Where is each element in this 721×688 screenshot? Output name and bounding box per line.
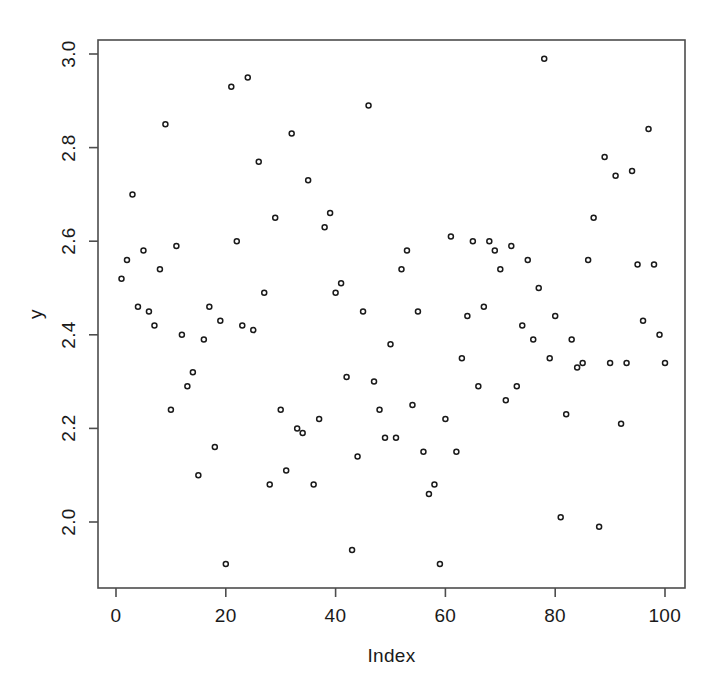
data-point (646, 126, 651, 131)
data-point (426, 491, 431, 496)
data-point (377, 407, 382, 412)
data-point (476, 384, 481, 389)
data-point (558, 515, 563, 520)
data-point (569, 337, 574, 342)
data-point (278, 407, 283, 412)
data-point (339, 281, 344, 286)
data-point (190, 370, 195, 375)
y-tick-label: 3.0 (57, 40, 79, 67)
data-point (218, 318, 223, 323)
data-point (333, 290, 338, 295)
data-point (185, 384, 190, 389)
data-point (300, 431, 305, 436)
data-point (652, 262, 657, 267)
data-point (608, 360, 613, 365)
data-point (361, 309, 366, 314)
y-tick-label: 2.2 (57, 415, 79, 442)
data-point (168, 407, 173, 412)
data-point (284, 468, 289, 473)
data-point (503, 398, 508, 403)
data-point (393, 435, 398, 440)
data-point (383, 435, 388, 440)
data-point (404, 248, 409, 253)
data-point (366, 103, 371, 108)
data-point (619, 421, 624, 426)
data-point (498, 267, 503, 272)
scatter-plot-figure: 020406080100 2.02.22.42.62.83.0 Index y (0, 0, 721, 688)
data-point (531, 337, 536, 342)
data-point (124, 257, 129, 262)
data-point (179, 332, 184, 337)
data-point (328, 211, 333, 216)
data-point (602, 154, 607, 159)
data-point (597, 524, 602, 529)
x-axis-title: Index (368, 645, 416, 667)
data-point (306, 178, 311, 183)
x-tick-label: 20 (215, 605, 237, 627)
data-point (295, 426, 300, 431)
data-point (509, 243, 514, 248)
data-point (317, 417, 322, 422)
data-point (525, 257, 530, 262)
data-point (536, 286, 541, 291)
data-point (212, 445, 217, 450)
data-point (229, 84, 234, 89)
data-point (372, 379, 377, 384)
data-point (119, 276, 124, 281)
data-point (388, 342, 393, 347)
data-point (459, 356, 464, 361)
data-point (256, 159, 261, 164)
data-point (174, 243, 179, 248)
data-point (613, 173, 618, 178)
data-point (355, 454, 360, 459)
data-point (542, 56, 547, 61)
data-point (437, 562, 442, 567)
data-point (624, 360, 629, 365)
data-point (344, 374, 349, 379)
data-point (492, 248, 497, 253)
data-point (240, 323, 245, 328)
plot-border (98, 40, 685, 588)
data-point (481, 304, 486, 309)
data-point (553, 314, 558, 319)
data-point (432, 482, 437, 487)
data-point (657, 332, 662, 337)
data-point (591, 215, 596, 220)
data-point (289, 131, 294, 136)
data-point (201, 337, 206, 342)
data-point (234, 239, 239, 244)
data-point (207, 304, 212, 309)
data-point (399, 267, 404, 272)
axis-ticks (89, 54, 665, 597)
data-point (251, 328, 256, 333)
y-tick-label: 2.0 (57, 508, 79, 535)
data-point (470, 239, 475, 244)
plot-frame (98, 40, 685, 588)
y-axis-title: y (25, 309, 47, 319)
data-point (273, 215, 278, 220)
data-point (564, 412, 569, 417)
data-point (130, 192, 135, 197)
data-point (520, 323, 525, 328)
data-point (514, 384, 519, 389)
data-point (267, 482, 272, 487)
y-tick-label: 2.6 (57, 228, 79, 255)
data-point (135, 304, 140, 309)
data-point (322, 225, 327, 230)
data-point (262, 290, 267, 295)
x-tick-label: 60 (434, 605, 456, 627)
data-point (630, 169, 635, 174)
data-point (223, 562, 228, 567)
data-point (575, 365, 580, 370)
x-tick-label: 100 (649, 605, 682, 627)
data-point (663, 360, 668, 365)
data-point (410, 403, 415, 408)
data-point (465, 314, 470, 319)
data-point (146, 309, 151, 314)
data-point (163, 122, 168, 127)
data-point (641, 318, 646, 323)
data-point (547, 356, 552, 361)
data-point (443, 417, 448, 422)
data-point (245, 75, 250, 80)
data-point (421, 449, 426, 454)
